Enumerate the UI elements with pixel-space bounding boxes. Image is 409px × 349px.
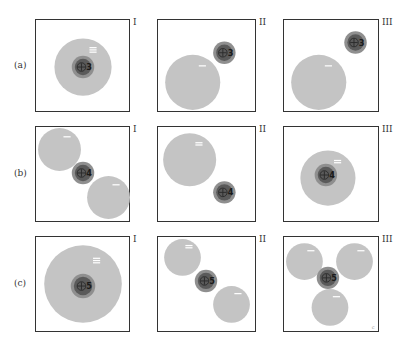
cation-charge: 4 bbox=[228, 187, 234, 197]
column-label-III: III bbox=[382, 17, 393, 27]
panel-b-I: 4 bbox=[35, 126, 130, 222]
ion-diagram: 3 bbox=[283, 19, 379, 112]
negative-charge-icon bbox=[112, 184, 119, 185]
cation-charge: 5 bbox=[86, 281, 92, 291]
column-label-III: III bbox=[382, 234, 393, 244]
cation: 3 bbox=[213, 42, 235, 64]
negative-charge-icon bbox=[199, 65, 206, 66]
ion-diagram: 5 bbox=[35, 236, 130, 332]
column-label-I: I bbox=[133, 124, 137, 134]
column-label-I: I bbox=[133, 234, 137, 244]
cation-charge: 3 bbox=[228, 48, 234, 58]
column-label-II: II bbox=[259, 17, 266, 27]
anion-sphere bbox=[291, 55, 346, 110]
cation-charge: 5 bbox=[209, 276, 215, 286]
anion-sphere bbox=[165, 55, 220, 110]
ion-diagram: 4 bbox=[157, 126, 256, 222]
cation: 3 bbox=[344, 31, 366, 53]
negative-charge-icon bbox=[195, 144, 202, 145]
row-label: (b) bbox=[14, 168, 27, 178]
cation: 4 bbox=[72, 162, 94, 184]
cation: 3 bbox=[72, 56, 94, 78]
cation: 4 bbox=[315, 164, 337, 186]
anion-sphere bbox=[312, 289, 349, 326]
anion-sphere bbox=[38, 128, 81, 171]
panel-c-II: 5 bbox=[157, 236, 256, 332]
anion-sphere bbox=[213, 286, 250, 323]
negative-charge-icon bbox=[93, 260, 100, 261]
column-label-III: III bbox=[382, 124, 393, 134]
column-label-I: I bbox=[133, 17, 137, 27]
negative-charge-icon bbox=[89, 52, 96, 53]
negative-charge-icon bbox=[325, 65, 332, 66]
cation: 5 bbox=[195, 270, 217, 292]
column-label-II: II bbox=[259, 124, 266, 134]
negative-charge-icon bbox=[93, 258, 100, 259]
corner-mark: c bbox=[372, 324, 375, 330]
panel-a-III: 3 bbox=[283, 19, 379, 112]
cation: 5 bbox=[317, 267, 339, 289]
cation-charge: 3 bbox=[359, 38, 365, 48]
negative-charge-icon bbox=[357, 250, 364, 251]
row-label: (a) bbox=[14, 60, 26, 70]
negative-charge-icon bbox=[333, 296, 340, 297]
negative-charge-icon bbox=[334, 162, 341, 163]
negative-charge-icon bbox=[185, 247, 192, 248]
cation-charge: 5 bbox=[331, 273, 337, 283]
anion-sphere bbox=[336, 243, 373, 280]
ion-diagram: 5c bbox=[283, 236, 379, 332]
panel-b-III: 4 bbox=[283, 126, 379, 222]
negative-charge-icon bbox=[89, 47, 96, 48]
negative-charge-icon bbox=[195, 142, 202, 143]
cation-charge: 4 bbox=[86, 168, 92, 178]
ion-diagram: 3 bbox=[157, 19, 256, 112]
anion-sphere bbox=[163, 133, 216, 186]
negative-charge-icon bbox=[234, 293, 241, 294]
negative-charge-icon bbox=[89, 49, 96, 50]
ion-diagram: 4 bbox=[35, 126, 130, 222]
panel-b-II: 4 bbox=[157, 126, 256, 222]
cation-charge: 3 bbox=[86, 62, 92, 72]
negative-charge-icon bbox=[185, 245, 192, 246]
panel-a-I: 3 bbox=[35, 19, 130, 112]
anion-sphere bbox=[164, 239, 201, 276]
column-label-II: II bbox=[259, 234, 266, 244]
negative-charge-icon bbox=[307, 250, 314, 251]
negative-charge-icon bbox=[334, 160, 341, 161]
ion-diagram: 5 bbox=[157, 236, 256, 332]
ion-diagram: 4 bbox=[283, 126, 379, 222]
panel-c-I: 5 bbox=[35, 236, 130, 332]
cation: 5 bbox=[71, 274, 96, 299]
cation-charge: 4 bbox=[329, 170, 335, 180]
cation: 4 bbox=[213, 181, 235, 203]
panel-c-III: 5c bbox=[283, 236, 379, 332]
anion-sphere bbox=[87, 176, 130, 219]
negative-charge-icon bbox=[93, 262, 100, 263]
row-label: (c) bbox=[14, 278, 26, 288]
figure-stage: (a)3I3II3III(b)4I4II4III(c)5I5II5cIII bbox=[0, 0, 409, 349]
panel-a-II: 3 bbox=[157, 19, 256, 112]
ion-diagram: 3 bbox=[35, 19, 130, 112]
negative-charge-icon bbox=[63, 136, 70, 137]
